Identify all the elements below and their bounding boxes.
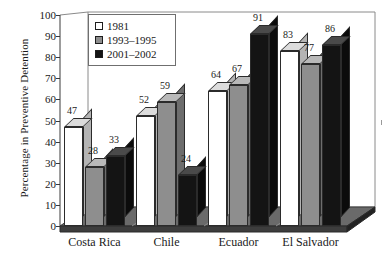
value-label-chile-series-2: 59 <box>160 81 170 91</box>
y-axis-tick-80: 80 <box>30 52 56 63</box>
value-label-el-salvador-series-1: 83 <box>283 30 293 40</box>
legend-label-1981: 1981 <box>107 21 129 32</box>
bar-chart: Percentage in Preventive Detention 10090… <box>0 0 388 258</box>
bar-front-face <box>136 116 155 226</box>
bar-front-face <box>280 51 299 226</box>
scan-artifact-mark <box>381 120 382 125</box>
bar-ecuador-series-1 <box>208 91 227 226</box>
bar-costa-rica-series-1 <box>64 127 83 226</box>
legend-swatch-2001-2002 <box>95 50 103 58</box>
bar-ecuador-series-3 <box>250 34 269 226</box>
bar-front-face <box>106 156 125 226</box>
y-axis-tickmark-10 <box>56 205 60 206</box>
y-axis-tick-0: 0 <box>30 221 56 232</box>
y-axis-tickmark-60 <box>56 99 60 100</box>
value-label-ecuador-series-2: 67 <box>232 64 242 74</box>
bar-front-face <box>157 102 176 226</box>
legend-label-1993-1995: 1993–1995 <box>107 35 157 46</box>
bar-el-salvador-series-3 <box>322 45 341 226</box>
y-axis-tickmark-40 <box>56 142 60 143</box>
bar-front-face <box>85 167 104 226</box>
value-label-chile-series-1: 52 <box>139 95 149 105</box>
bar-front-face <box>64 127 83 226</box>
bar-front-face <box>301 64 320 226</box>
bar-ecuador-series-2 <box>229 85 248 226</box>
value-label-costa-rica-series-2: 28 <box>88 146 98 156</box>
bar-side-face <box>269 15 278 217</box>
bar-front-face <box>250 34 269 226</box>
bar-el-salvador-series-1 <box>280 51 299 226</box>
value-label-ecuador-series-1: 64 <box>211 70 221 80</box>
y-axis-tickmark-0 <box>56 226 60 227</box>
y-axis-tick-100: 100 <box>30 10 56 21</box>
bar-costa-rica-series-3 <box>106 156 125 226</box>
y-axis-tickmark-30 <box>56 163 60 164</box>
y-axis-tickmark-100 <box>56 15 60 16</box>
value-label-costa-rica-series-1: 47 <box>67 106 77 116</box>
y-axis-tick-labels: 1009080706050403020100 <box>28 0 56 258</box>
y-axis-tickmark-70 <box>56 78 60 79</box>
value-label-ecuador-series-3: 91 <box>253 13 263 23</box>
y-axis-tick-60: 60 <box>30 94 56 105</box>
value-label-chile-series-3: 24 <box>181 154 191 164</box>
y-axis-tickmark-90 <box>56 36 60 37</box>
value-label-costa-rica-series-3: 33 <box>109 135 119 145</box>
bar-front-face <box>229 85 248 226</box>
legend-label-2001-2002: 2001–2002 <box>107 49 157 60</box>
value-label-el-salvador-series-3: 86 <box>325 24 335 34</box>
bar-chile-series-3 <box>178 175 197 226</box>
y-axis-tickmark-80 <box>56 57 60 58</box>
y-axis-tickmark-50 <box>56 121 60 122</box>
y-axis-tickmark-20 <box>56 184 60 185</box>
bar-el-salvador-series-2 <box>301 64 320 226</box>
legend-swatch-1981 <box>95 22 103 30</box>
legend-item: 1993–1995 <box>95 33 170 47</box>
category-label-el-salvador: El Salvador <box>264 236 357 248</box>
y-axis-tick-20: 20 <box>30 179 56 190</box>
y-axis-tick-10: 10 <box>30 200 56 211</box>
bar-front-face <box>322 45 341 226</box>
bar-chile-series-1 <box>136 116 155 226</box>
bar-front-face <box>208 91 227 226</box>
y-axis-tick-70: 70 <box>30 73 56 84</box>
y-axis-tick-30: 30 <box>30 158 56 169</box>
legend-item: 1981 <box>95 19 170 33</box>
bar-costa-rica-series-2 <box>85 167 104 226</box>
bar-chile-series-2 <box>157 102 176 226</box>
y-axis-tick-40: 40 <box>30 137 56 148</box>
y-axis-tick-90: 90 <box>30 31 56 42</box>
legend-swatch-1993-1995 <box>95 36 103 44</box>
bar-side-face <box>341 26 350 217</box>
legend: 1981 1993–1995 2001–2002 <box>88 14 176 66</box>
bar-front-face <box>178 175 197 226</box>
legend-item: 2001–2002 <box>95 47 170 61</box>
y-axis-tick-50: 50 <box>30 116 56 127</box>
value-label-el-salvador-series-2: 77 <box>304 43 314 53</box>
